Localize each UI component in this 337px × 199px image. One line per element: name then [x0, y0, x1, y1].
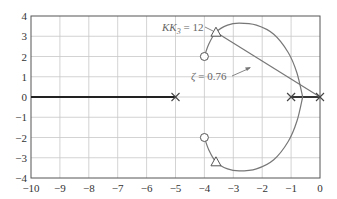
y-tick-label: −2 — [15, 132, 27, 144]
x-tick-label: −6 — [141, 182, 153, 194]
y-tick-label: 4 — [22, 10, 28, 22]
x-tick-label: −5 — [170, 182, 182, 194]
x-tick-label: 0 — [317, 182, 323, 194]
lower-branch — [204, 97, 302, 171]
damping-arrowhead — [245, 67, 251, 71]
x-tick-label: −8 — [83, 182, 95, 194]
y-tick-label: 1 — [22, 71, 28, 83]
operating-point-triangle — [211, 27, 221, 36]
y-tick-label: −1 — [15, 111, 27, 123]
zero-circle-marker — [200, 53, 208, 61]
root-locus-plot: −10−9−8−7−6−5−4−3−2−1043210−1−2−3−4 KK3 … — [0, 0, 337, 199]
damping-annotation: ζ = 0.76 — [191, 70, 227, 83]
x-tick-label: −9 — [54, 182, 66, 194]
y-tick-label: −4 — [15, 172, 27, 184]
x-tick-label: −7 — [112, 182, 124, 194]
gain-annotation: KK3 = 12 — [161, 21, 203, 36]
operating-point-triangle — [211, 157, 221, 166]
y-tick-label: 0 — [22, 91, 28, 103]
damping-ratio-line — [216, 32, 320, 97]
zero-circle-marker — [200, 134, 208, 142]
y-tick-label: −3 — [15, 152, 27, 164]
x-tick-label: −2 — [256, 182, 268, 194]
y-tick-label: 3 — [22, 30, 28, 42]
x-tick-label: −3 — [227, 182, 239, 194]
x-tick-label: −1 — [285, 182, 297, 194]
gain-leader-line — [205, 27, 213, 31]
y-tick-label: 2 — [22, 51, 28, 63]
x-tick-label: −4 — [199, 182, 211, 194]
